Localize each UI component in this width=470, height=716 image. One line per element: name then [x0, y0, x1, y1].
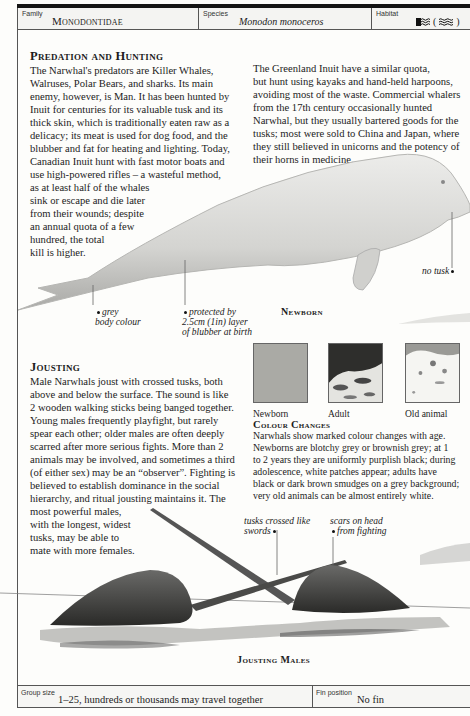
text-line: adolescence, white patches appear; adult… — [253, 466, 468, 478]
text-line: believed to establish dominance in the s… — [30, 479, 245, 492]
pointer-dot — [273, 530, 276, 533]
group-size-value: 1–25, hundreds or thousands may travel t… — [58, 694, 263, 705]
text-line: Young males frequently playfight, but ra… — [30, 414, 245, 427]
text-line: avoiding most of the waste. Commercial w… — [253, 88, 468, 101]
text-line: animals may be involved, and sometimes a… — [30, 453, 245, 466]
text-line: Male Narwhals joust with crossed tusks, … — [30, 375, 245, 388]
swatch-adult — [328, 343, 383, 403]
sea-ice-icon — [416, 18, 430, 26]
text-line: enemy, however, is Man. It has been hunt… — [30, 90, 240, 103]
caption-line: body colour — [95, 317, 141, 327]
text-line: above and below the surface. The sound i… — [30, 388, 245, 401]
habitat-paren-open: ( — [433, 16, 436, 27]
caption-line: from fighting — [337, 526, 387, 536]
species-label: Species — [203, 10, 228, 17]
text-line: Newborns are blotchy grey or brownish gr… — [253, 442, 468, 454]
pointer-dot — [332, 530, 335, 533]
text-line: The Greenland Inuit have a similar quota… — [253, 62, 468, 75]
newborn-narwhal-illustration — [18, 150, 470, 325]
species-header: Family Monodontidae Species Monodon mono… — [17, 8, 470, 30]
caption-line: swords — [244, 526, 271, 536]
text-line: hierarchy, and ritual jousting maintains… — [30, 492, 245, 505]
jousting-title: Jousting — [30, 360, 245, 375]
caption-blubber: protected by 2.5cm (1in) layer of blubbe… — [182, 307, 252, 337]
text-line: black or dark brown smudges on a grey ba… — [253, 478, 468, 490]
swatch-newborn — [253, 343, 308, 403]
habitat-value: ( ) — [416, 16, 460, 27]
text-line: 2 wooden walking sticks being banged tog… — [30, 401, 245, 414]
caption-line: tusks crossed like — [244, 516, 310, 526]
species-footer: Group size 1–25, hundreds or thousands m… — [17, 685, 470, 708]
caption-line: 2.5cm (1in) layer — [182, 317, 252, 327]
caption-grey-body: grey body colour — [95, 307, 141, 327]
family-label: Family — [22, 10, 43, 17]
habitat-paren-close: ) — [456, 16, 459, 27]
text-line: Walruses, Polar Bears, and sharks. Its m… — [30, 77, 240, 90]
text-line: The Narwhal's predators are Killer Whale… — [30, 64, 240, 77]
text-line: very old animals can be almost entirely … — [253, 490, 468, 502]
family-cell: Family Monodontidae — [18, 8, 199, 30]
fin-position-cell: Fin position No fin — [313, 686, 470, 708]
text-line: from the 17th century occasionally hunte… — [253, 101, 468, 114]
group-size-label: Group size — [21, 689, 55, 696]
text-line: Inuit for centuries for its valuable tus… — [30, 103, 240, 116]
text-line: but hunt using kayaks and hand-held harp… — [253, 75, 468, 88]
swatch-label-old-animal: Old animal — [405, 409, 447, 419]
pointer-dot — [184, 311, 187, 314]
swatch-old-animal — [405, 343, 460, 403]
pointer-dot — [451, 270, 454, 273]
newborn-title: Newborn — [281, 306, 323, 317]
caption-tusks-crossed: tusks crossed like swords — [244, 516, 310, 536]
predation-title: Predation and Hunting — [30, 49, 240, 64]
species-cell: Species Monodon monoceros — [199, 8, 372, 30]
colour-changes-text: Narwhals show marked colour changes with… — [253, 430, 468, 502]
text-line: Narwhal, but they usually bartered goods… — [253, 114, 468, 127]
fin-position-value: No fin — [357, 694, 384, 705]
caption-line: of blubber at birth — [182, 327, 252, 337]
fin-position-label: Fin position — [316, 689, 352, 696]
text-line: thick skin, which is traditionally eaten… — [30, 116, 240, 129]
swatch-label-newborn: Newborn — [253, 409, 288, 419]
caption-line: protected by — [189, 307, 236, 317]
caption-line: scars on head — [330, 516, 387, 526]
jousting-males-title: Jousting Males — [237, 654, 310, 665]
pointer-dot — [97, 311, 100, 314]
text-line: spear each other; older males are often … — [30, 427, 245, 440]
text-line: to 2 years they are uniformly purplish b… — [253, 454, 468, 466]
caption-scars: scars on head from fighting — [330, 516, 387, 536]
habitat-label: Habitat — [376, 10, 398, 17]
colour-changes-section: Colour Changes Narwhals show marked colo… — [253, 419, 468, 502]
jousting-males-illustration — [0, 505, 470, 660]
colour-changes-title: Colour Changes — [253, 419, 468, 430]
family-value: Monodontidae — [52, 15, 123, 27]
text-line: scarred after more serious fights. More … — [30, 440, 245, 453]
caption-no-tusk: no tusk — [422, 266, 456, 276]
group-size-cell: Group size 1–25, hundreds or thousands m… — [18, 686, 313, 708]
text-line: (of either sex) may be an “observer”. Fi… — [30, 466, 245, 479]
caption-line: no tusk — [422, 266, 449, 276]
text-line: delicacy; its meat is used for dog food,… — [30, 129, 240, 142]
habitat-cell: Habitat ( ) — [372, 8, 470, 30]
text-line: tusks; most were sold to China and Japan… — [253, 127, 468, 140]
text-line: Narwhals show marked colour changes with… — [253, 430, 468, 442]
swatch-label-adult: Adult — [328, 409, 350, 419]
caption-line: grey — [102, 307, 119, 317]
species-value: Monodon monoceros — [239, 16, 323, 27]
open-sea-icon — [439, 18, 453, 26]
